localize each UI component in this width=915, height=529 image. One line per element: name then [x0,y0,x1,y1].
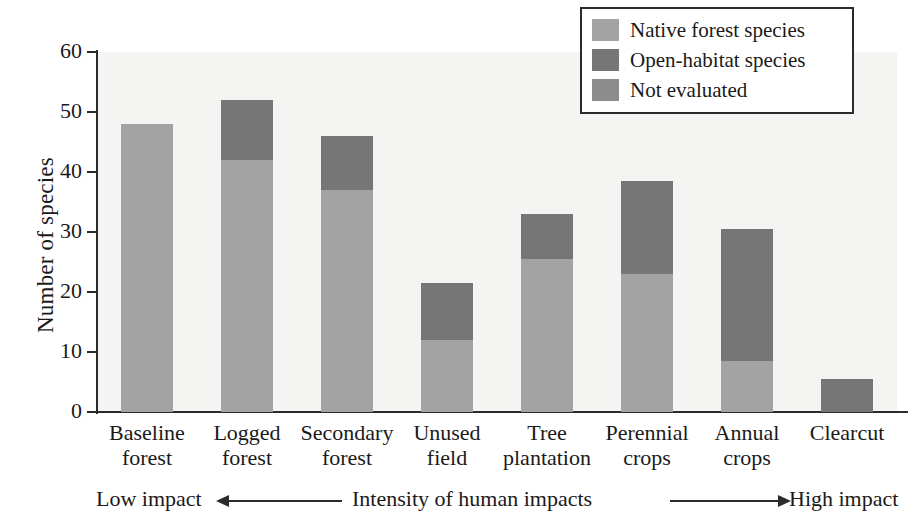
bar-segment [321,136,373,190]
arrow-right-line [670,500,780,502]
bar-segment [221,160,273,412]
x-axis-category-label-line: forest [189,445,305,470]
bar-segment [521,214,573,259]
legend-label-open-habitat-species: Open-habitat species [630,50,806,71]
legend-item: Not evaluated [592,75,842,105]
bar-segment [621,274,673,412]
impact-low-label: Low impact [96,487,202,511]
x-axis-category-label-line: field [389,445,505,470]
x-axis-category-label-line: crops [589,445,705,470]
x-axis-category-label: Baselineforest [89,420,205,470]
x-axis-category-label-line: Logged [189,420,305,445]
y-axis-tick-label: 10 [40,340,82,362]
x-axis-category-label-line: Tree [489,420,605,445]
x-axis-category-label-line: Annual [689,420,805,445]
bar-segment [521,259,573,412]
x-axis-category-label-line: crops [689,445,805,470]
bar-group [121,52,173,412]
bar-segment [721,361,773,412]
y-axis-tick-label: 30 [40,220,82,242]
x-axis-category-label: Secondaryforest [289,420,405,470]
legend-item: Native forest species [592,15,842,45]
bar-segment [221,100,273,160]
impact-gradient-axis: Low impact Intensity of human impacts Hi… [0,487,915,517]
bar-group [221,52,273,412]
x-axis-category-label: Loggedforest [189,420,305,470]
legend-swatch-native-forest-species [592,19,619,41]
bar-segment [421,283,473,340]
bar-group [321,52,373,412]
x-axis-category-label: Perennialcrops [589,420,705,470]
y-axis-tick-label: 50 [40,100,82,122]
x-axis-category-label-line: Unused [389,420,505,445]
stacked-bar-chart-figure: Number of species 0102030405060 Baseline… [0,0,915,529]
x-axis-category-label-line: Clearcut [789,420,905,445]
x-axis-category-label-line: Perennial [589,420,705,445]
legend-label-not-evaluated: Not evaluated [630,80,747,101]
y-axis-tick-label: 20 [40,280,82,302]
legend-label-native-forest-species: Native forest species [630,20,805,41]
bar-group [521,52,573,412]
bar-group [421,52,473,412]
x-axis-category-label-line: plantation [489,445,605,470]
legend-item: Open-habitat species [592,45,842,75]
x-axis-category-label-line: Baseline [89,420,205,445]
bar-segment [421,340,473,412]
y-axis-tick-label: 60 [40,40,82,62]
x-axis-category-label-line: Secondary [289,420,405,445]
bar-segment [821,379,873,412]
impact-axis-label: Intensity of human impacts [352,487,592,511]
bar-segment [121,124,173,412]
legend: Native forest species Open-habitat speci… [580,7,854,114]
x-axis-category-label: Treeplantation [489,420,605,470]
y-axis-tick-label: 40 [40,160,82,182]
x-axis-category-label-line: forest [289,445,405,470]
legend-swatch-not-evaluated [592,79,619,101]
bar-segment [321,190,373,412]
y-axis-tick-label: 0 [40,400,82,422]
x-axis-category-label-line: forest [89,445,205,470]
legend-swatch-open-habitat-species [592,49,619,71]
x-axis-category-label: Unusedfield [389,420,505,470]
x-axis-category-label: Annualcrops [689,420,805,470]
arrow-left-line [228,500,342,502]
x-axis-category-label: Clearcut [789,420,905,445]
bar-segment [721,229,773,361]
impact-high-label: High impact [789,487,898,511]
bar-segment [621,181,673,274]
